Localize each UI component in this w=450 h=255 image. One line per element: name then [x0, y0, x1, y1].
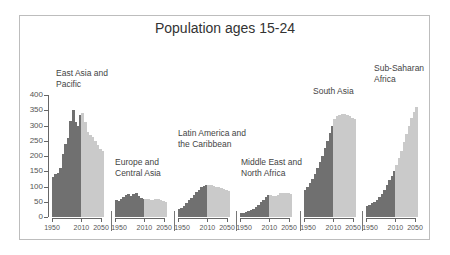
y-axis — [48, 95, 49, 217]
x-tick — [289, 218, 290, 222]
x-tick-label: 2050 — [156, 224, 172, 231]
x-axis — [366, 218, 415, 219]
region-label: East Asia andPacific — [56, 68, 108, 90]
x-tick-label: 1950 — [44, 224, 60, 231]
y-tick — [44, 110, 48, 111]
y-tick — [44, 141, 48, 142]
x-tick-label: 1950 — [174, 224, 190, 231]
y-tick-label: 100 — [19, 182, 43, 191]
region-label-line: Latin America and — [178, 128, 246, 139]
region-label: South Asia — [313, 86, 354, 97]
x-tick — [52, 218, 53, 222]
x-tick — [227, 218, 228, 222]
x-tick-label: 2010 — [388, 224, 404, 231]
x-tick-label: 2050 — [345, 224, 361, 231]
x-tick-label: 2010 — [262, 224, 278, 231]
x-tick-label: 2010 — [200, 224, 216, 231]
y-tick — [44, 156, 48, 157]
y-tick — [44, 171, 48, 172]
region-label-line: Sub-Saharan — [374, 63, 424, 74]
x-axis — [240, 218, 289, 219]
x-tick — [240, 218, 241, 222]
x-tick-label: 2050 — [407, 224, 423, 231]
region-label: Latin America andthe Caribbean — [178, 128, 246, 150]
region-panel — [366, 95, 417, 217]
x-axis — [52, 218, 101, 219]
x-tick-label: 2010 — [326, 224, 342, 231]
region-label-line: the Caribbean — [178, 139, 246, 150]
x-tick — [101, 218, 102, 222]
panel-separator — [174, 211, 175, 231]
x-tick-label: 1950 — [111, 224, 127, 231]
x-tick — [333, 218, 334, 222]
x-tick-label: 2010 — [137, 224, 153, 231]
x-tick — [144, 218, 145, 222]
region-panel — [52, 95, 103, 217]
region-label-line: Middle East and — [241, 157, 302, 168]
y-tick-label: 0 — [19, 212, 43, 221]
region-label-line: Europe and — [115, 157, 161, 168]
x-tick — [269, 218, 270, 222]
y-tick — [44, 217, 48, 218]
y-tick-label: 400 — [19, 90, 43, 99]
data-bar — [164, 202, 167, 217]
y-tick — [44, 126, 48, 127]
x-tick-label: 1950 — [236, 224, 252, 231]
panel-separator — [236, 211, 237, 231]
x-tick — [115, 218, 116, 222]
x-tick-label: 2050 — [219, 224, 235, 231]
x-tick — [304, 218, 305, 222]
region-panel — [115, 95, 166, 217]
x-tick-label: 2050 — [93, 224, 109, 231]
region-label-line: Central Asia — [115, 168, 161, 179]
y-tick-label: 300 — [19, 121, 43, 130]
region-label: Middle East andNorth Africa — [241, 157, 302, 179]
x-tick — [207, 218, 208, 222]
region-label-line: East Asia and — [56, 68, 108, 79]
y-tick-label: 200 — [19, 151, 43, 160]
data-bar — [227, 191, 230, 217]
x-axis — [115, 218, 164, 219]
y-tick-label: 350 — [19, 105, 43, 114]
chart-title: Population ages 15-24 — [0, 20, 450, 36]
region-label: Europe andCentral Asia — [115, 157, 161, 179]
y-tick-label: 150 — [19, 166, 43, 175]
x-tick — [366, 218, 367, 222]
region-panel — [304, 95, 355, 217]
y-tick — [44, 95, 48, 96]
x-tick — [395, 218, 396, 222]
x-tick-label: 2050 — [281, 224, 297, 231]
y-tick — [44, 202, 48, 203]
panel-separator — [300, 211, 301, 231]
data-bar — [101, 151, 104, 217]
region-label: Sub-SaharanAfrica — [374, 63, 424, 85]
data-bar — [353, 119, 356, 217]
y-tick-label: 50 — [19, 197, 43, 206]
region-label-line: North Africa — [241, 168, 302, 179]
x-tick — [164, 218, 165, 222]
x-tick-label: 1950 — [300, 224, 316, 231]
region-panel — [178, 95, 229, 217]
region-label-line: South Asia — [313, 86, 354, 97]
region-label-line: Africa — [374, 74, 424, 85]
panel-separator — [362, 211, 363, 231]
data-bar — [415, 107, 418, 217]
x-axis — [304, 218, 353, 219]
y-tick-label: 250 — [19, 136, 43, 145]
data-bar — [289, 194, 292, 217]
x-tick — [415, 218, 416, 222]
x-axis — [178, 218, 227, 219]
x-tick — [178, 218, 179, 222]
region-label-line: Pacific — [56, 79, 108, 90]
region-panel — [240, 95, 291, 217]
x-tick-label: 1950 — [362, 224, 378, 231]
panel-separator — [111, 211, 112, 231]
y-tick — [44, 187, 48, 188]
x-tick — [81, 218, 82, 222]
x-tick — [353, 218, 354, 222]
x-tick-label: 2010 — [74, 224, 90, 231]
